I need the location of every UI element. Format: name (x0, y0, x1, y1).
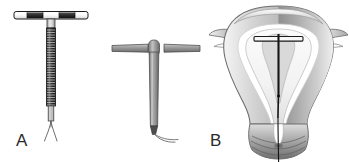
hormonal-iud-right-arm (164, 44, 200, 52)
hormonal-iud-illustration (104, 0, 208, 162)
copper-iud-coil (47, 28, 56, 106)
iud-figure: A (0, 0, 349, 162)
uterus-illustration (208, 0, 349, 162)
hormonal-iud-retrieval-thread (154, 134, 178, 142)
iud-retrieval-string (278, 118, 279, 162)
hormonal-iud-left-arm (112, 44, 148, 52)
copper-iud-retrieval-threads (45, 121, 58, 141)
copper-iud-transverse-arm (14, 12, 88, 20)
panel-label-a: A (16, 132, 28, 149)
panel-hormonal-iud: B (104, 0, 208, 162)
panel-uterus-cross-section: C (208, 0, 349, 162)
hormonal-iud-stem (149, 52, 159, 126)
copper-iud-upper-stem (47, 19, 55, 28)
copper-iud-lower-stem (48, 106, 54, 121)
hormonal-iud-tip (150, 126, 157, 135)
panel-copper-iud: A (0, 0, 104, 162)
